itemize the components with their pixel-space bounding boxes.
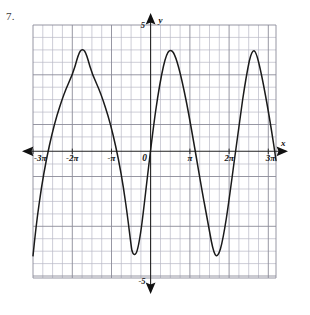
y-axis-min-label: -5 — [138, 276, 146, 286]
x-axis-name-label: x — [280, 138, 286, 148]
x-tick-label-zero: 0 — [142, 153, 147, 163]
y-axis-name-label: y — [158, 15, 164, 25]
x-tick-label-2pi: 2π — [223, 153, 235, 163]
x-tick-label-3pi: 3π — [265, 153, 277, 163]
x-tick-label-negpi: -π — [108, 153, 117, 163]
coordinate-plane: -3π -2π -π 0 π 2π 3π 5 -5 y x — [0, 0, 310, 315]
x-tick-label-neg3pi: -3π — [34, 153, 47, 163]
worksheet-graph-figure: 7. — [0, 0, 310, 315]
graph-svg: -3π -2π -π 0 π 2π 3π 5 -5 y x — [0, 0, 310, 315]
x-tick-label-neg2pi: -2π — [66, 153, 79, 163]
